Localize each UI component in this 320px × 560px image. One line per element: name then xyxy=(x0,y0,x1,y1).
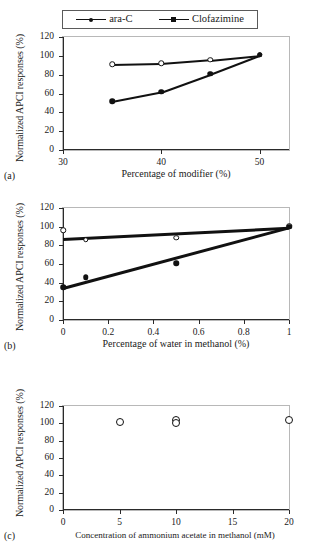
x-tick-b: 0.2 xyxy=(108,320,109,324)
x-tick-label-c: 5 xyxy=(117,517,122,527)
x-tick-c: 20 xyxy=(289,510,290,514)
data-point-clofazimine xyxy=(159,89,165,95)
legend-item-ara-c: ara-C xyxy=(76,14,132,25)
legend-marker-ara-c-icon xyxy=(76,15,106,24)
data-point-clofazimine xyxy=(257,52,263,58)
x-tick-label-b: 0.6 xyxy=(193,327,205,337)
y-tick-label-c: 60 xyxy=(45,452,55,462)
y-tick-c: 40 xyxy=(59,475,63,476)
y-tick-label-a: 20 xyxy=(45,125,55,135)
x-axis-label-a: Percentage of modifier (%) xyxy=(62,168,290,179)
y-tick-label-b: 40 xyxy=(45,277,55,287)
x-axis-label-c: Concentration of ammonium acetate in met… xyxy=(30,530,320,540)
series-line-clofazimine xyxy=(161,74,211,94)
data-point-clofazimine xyxy=(172,419,180,427)
y-tick-a: 40 xyxy=(59,112,63,113)
figure-container: ara-C Clofazimine Normalized APCI respon… xyxy=(0,0,320,560)
x-tick-label-c: 20 xyxy=(284,517,294,527)
y-tick-label-b: 0 xyxy=(49,314,54,324)
x-tick-a: 30 xyxy=(63,150,64,154)
panel-tag-c: (c) xyxy=(4,530,15,541)
y-tick-a: 60 xyxy=(59,94,63,95)
x-tick-a: 40 xyxy=(161,150,162,154)
y-tick-a: 20 xyxy=(59,131,63,132)
y-tick-b: 120 xyxy=(59,208,63,209)
series-line-ara-c xyxy=(161,60,210,66)
x-tick-b: 0.4 xyxy=(153,320,154,324)
y-tick-c: 80 xyxy=(59,441,63,442)
x-tick-label-a: 50 xyxy=(255,157,265,167)
x-tick-label-b: 0.2 xyxy=(102,327,114,337)
x-tick-label-c: 15 xyxy=(228,517,238,527)
y-tick-a: 100 xyxy=(59,56,63,57)
y-tick-b: 80 xyxy=(59,245,63,246)
y-tick-b: 40 xyxy=(59,283,63,284)
data-point-ara-c xyxy=(285,416,293,424)
y-tick-label-a: 40 xyxy=(45,106,55,116)
x-tick-b: 0.8 xyxy=(244,320,245,324)
x-tick-c: 10 xyxy=(176,510,177,514)
series-line-ara-c xyxy=(112,63,161,66)
y-tick-c: 120 xyxy=(59,406,63,407)
y-tick-b: 20 xyxy=(59,301,63,302)
data-point-clofazimine xyxy=(60,285,66,291)
x-tick-label-b: 0.8 xyxy=(238,327,250,337)
data-point-ara-c xyxy=(173,235,179,241)
y-tick-c: 100 xyxy=(59,423,63,424)
x-tick-a: 50 xyxy=(260,150,261,154)
y-tick-label-c: 20 xyxy=(45,487,55,497)
y-tick-label-a: 120 xyxy=(40,31,54,41)
x-tick-c: 0 xyxy=(63,510,64,514)
y-tick-label-b: 60 xyxy=(45,258,55,268)
data-point-clofazimine xyxy=(286,224,292,230)
x-tick-label-c: 10 xyxy=(171,517,181,527)
y-axis-line-a xyxy=(63,37,64,150)
data-point-clofazimine xyxy=(109,98,115,104)
y-tick-label-a: 0 xyxy=(49,144,54,154)
plot-area-b: 02040608010012000.20.40.60.81 xyxy=(62,207,290,321)
chart-panel-a: ara-C Clofazimine Normalized APCI respon… xyxy=(0,0,320,190)
panel-tag-a: (a) xyxy=(4,170,15,181)
x-tick-label-a: 40 xyxy=(157,157,167,167)
chart-panel-b: Normalized APCI responses (%) 0204060801… xyxy=(0,186,320,374)
x-tick-label-c: 0 xyxy=(61,517,66,527)
y-tick-label-b: 20 xyxy=(45,295,55,305)
y-tick-a: 80 xyxy=(59,75,63,76)
x-tick-label-a: 30 xyxy=(58,157,68,167)
x-tick-c: 5 xyxy=(120,510,121,514)
y-axis-label-b: Normalized APCI responses (%) xyxy=(14,203,25,331)
y-tick-label-b: 100 xyxy=(40,221,54,231)
x-tick-label-b: 0 xyxy=(61,327,66,337)
legend-label-clofazimine: Clofazimine xyxy=(192,14,244,25)
series-line-clofazimine xyxy=(112,92,161,103)
x-tick-b: 0.6 xyxy=(199,320,200,324)
x-tick-label-b: 1 xyxy=(287,327,292,337)
data-point-clofazimine xyxy=(173,260,179,266)
data-point-clofazimine xyxy=(208,71,214,77)
y-tick-label-b: 120 xyxy=(40,202,54,212)
x-axis-label-b: Percentage of water in methanol (%) xyxy=(62,338,290,349)
y-tick-b: 60 xyxy=(59,264,63,265)
data-point-ara-c xyxy=(109,62,115,68)
y-tick-label-a: 80 xyxy=(45,69,55,79)
data-point-ara-c xyxy=(208,57,214,63)
x-tick-b: 1 xyxy=(289,320,290,324)
chart-legend: ara-C Clofazimine xyxy=(62,10,258,29)
y-tick-c: 20 xyxy=(59,493,63,494)
plot-area-c: 02040608010012005101520 xyxy=(62,405,290,511)
chart-panel-c: Normalized APCI responses (%) 0204060801… xyxy=(0,374,320,560)
legend-label-ara-c: ara-C xyxy=(109,14,132,25)
y-axis-line-c xyxy=(63,406,64,510)
y-tick-label-c: 100 xyxy=(40,417,54,427)
y-axis-label-a: Normalized APCI responses (%) xyxy=(14,34,25,162)
panel-tag-b: (b) xyxy=(4,340,16,351)
y-tick-label-c: 0 xyxy=(49,504,54,514)
data-point-ara-c xyxy=(116,418,124,426)
legend-item-clofazimine: Clofazimine xyxy=(159,14,244,25)
legend-marker-clofazimine-icon xyxy=(159,15,189,24)
x-tick-label-b: 0.4 xyxy=(147,327,159,337)
x-axis-line-b xyxy=(63,319,289,320)
y-tick-c: 60 xyxy=(59,458,63,459)
x-axis-line-a xyxy=(63,149,289,150)
y-tick-label-c: 80 xyxy=(45,435,55,445)
